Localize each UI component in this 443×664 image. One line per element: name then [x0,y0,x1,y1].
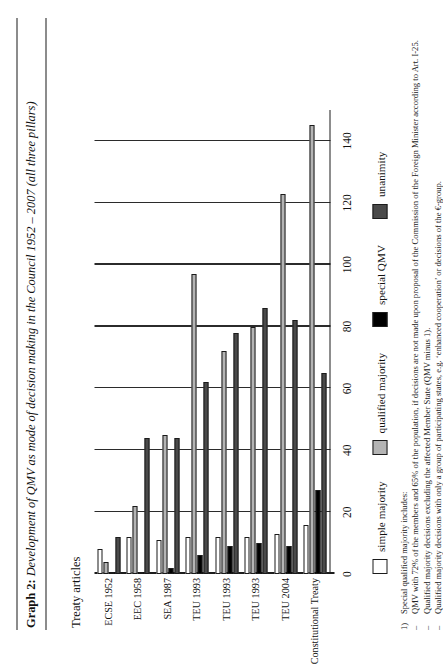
footnote-marker: – [432,619,443,630]
bar-simple-majority-TEU-1993 [244,537,249,574]
bar-special-QMV-ECSE-1952 [109,572,114,574]
footnote-marker: 1) [398,619,409,630]
category-label-SEA-1987: SEA 1987 [161,578,172,620]
bar-unanimity-TEU-1993 [233,333,238,574]
bar-special-QMV-SEA-1987 [168,568,173,574]
category-label-Constitutional-Treaty: Constitutional Treaty [308,578,319,664]
bar-group: SEA 1987 [153,110,183,574]
bar-simple-majority-TEU-1993 [185,537,190,574]
bar-special-QMV-TEU-1993 [227,546,232,574]
legend-item-unanimity: unanimity [372,152,387,219]
page-title: Graph 2: Development of QMV as mode of d… [17,18,45,630]
chart-container: Treaty articles 020406080100120140ECSE 1… [66,18,366,630]
footnote-row: –Qualified majority decisions excluding … [421,16,432,630]
legend-swatch-icon [372,440,387,455]
bar-unanimity-TEU-2004 [292,320,297,574]
bar-unanimity-TEU-1993 [203,382,208,574]
category-label-TEU-1993: TEU 1993 [220,578,231,621]
bar-simple-majority-Constitutional-Treaty [303,525,308,574]
legend-label: unanimity [374,152,386,197]
bar-unanimity-Constitutional-Treaty [321,373,326,574]
bar-special-QMV-Constitutional-Treaty [315,490,320,574]
footnotes: 1)Special qualified majority includes:–Q… [398,16,443,630]
axis-tick-120: 120 [340,194,352,211]
bar-qualified-majority-TEU-2004 [280,194,285,574]
legend-label: qualified majority [374,353,386,433]
legend-swatch-icon [372,559,387,574]
bar-group: ECSE 1952 [94,110,124,574]
bar-unanimity-SEA-1987 [174,438,179,574]
header-rule-bottom [45,18,46,630]
chart-legend: simple majorityqualified majorityspecial… [372,34,387,574]
footnote-marker: – [409,619,420,630]
bar-qualified-majority-TEU-1993 [191,274,196,574]
bar-group: TEU 2004 [271,110,301,574]
axis-baseline [329,110,330,574]
axis-title-treaty-articles: Treaty articles [68,557,83,628]
footnote-row: –Qualified majority decisions with only … [432,16,443,630]
bar-qualified-majority-Constitutional-Treaty [309,125,314,574]
axis-tick-60: 60 [340,383,352,395]
bar-special-QMV-EEC-1958 [138,572,143,574]
footnote-text: Special qualified majority includes: [398,16,409,614]
bar-simple-majority-TEU-1993 [215,537,220,574]
bar-simple-majority-ECSE-1952 [97,549,102,574]
axis-tick-0: 0 [340,571,352,577]
bar-group: TEU 1993 [212,110,242,574]
axis-tick-80: 80 [340,321,352,333]
bar-qualified-majority-TEU-1993 [221,351,226,574]
footnote-marker: – [421,619,432,630]
bar-group: TEU 1993 [242,110,272,574]
category-label-ECSE-1952: ECSE 1952 [102,578,113,626]
bar-special-QMV-TEU-1993 [197,555,202,574]
bar-group: Constitutional Treaty [301,110,331,574]
category-label-TEU-1993: TEU 1993 [190,578,201,621]
bar-simple-majority-EEC-1958 [126,537,131,574]
legend-item-special-QMV: special QMV [372,245,387,327]
axis-tick-140: 140 [340,132,352,149]
category-label-TEU-2004: TEU 2004 [279,578,290,621]
legend-label: special QMV [374,245,386,305]
footnote-row: –QMV with 72% of the members and 65% of … [409,16,420,630]
bar-special-QMV-TEU-1993 [256,543,261,574]
bar-simple-majority-TEU-2004 [274,534,279,574]
legend-swatch-icon [372,312,387,327]
bar-unanimity-ECSE-1952 [115,537,120,574]
plot-area: 020406080100120140ECSE 1952EEC 1958SEA 1… [94,110,330,574]
category-label-TEU-1993: TEU 1993 [249,578,260,621]
footnote-row: 1)Special qualified majority includes: [398,16,409,630]
figure-caption: Development of QMV as mode of decision m… [23,101,37,576]
axis-tick-40: 40 [340,445,352,457]
bar-simple-majority-SEA-1987 [156,540,161,574]
bar-unanimity-EEC-1958 [144,438,149,574]
bar-special-QMV-TEU-2004 [286,546,291,574]
bar-unanimity-TEU-1993 [262,308,267,574]
footnote-text: Qualified majority decisions with only a… [432,16,443,614]
bar-qualified-majority-SEA-1987 [162,435,167,574]
legend-item-simple-majority: simple majority [372,481,387,574]
bar-group: EEC 1958 [124,110,154,574]
figure-header: Graph 2: Development of QMV as mode of d… [16,18,46,630]
axis-tick-20: 20 [340,506,352,518]
figure-label: Graph 2: [23,579,37,628]
bar-qualified-majority-TEU-1993 [250,327,255,574]
axis-tick-100: 100 [340,256,352,273]
bar-group: TEU 1993 [183,110,213,574]
plot-inner: 020406080100120140ECSE 1952EEC 1958SEA 1… [94,110,330,574]
legend-label: simple majority [374,481,386,552]
legend-swatch-icon [372,204,387,219]
legend-item-qualified-majority: qualified majority [372,353,387,455]
category-label-EEC-1958: EEC 1958 [131,578,142,620]
footnote-text: Qualified majority decisions excluding t… [421,16,432,614]
bar-qualified-majority-ECSE-1952 [103,562,108,574]
footnote-text: QMV with 72% of the members and 65% of t… [409,16,420,614]
bar-qualified-majority-EEC-1958 [132,506,137,574]
